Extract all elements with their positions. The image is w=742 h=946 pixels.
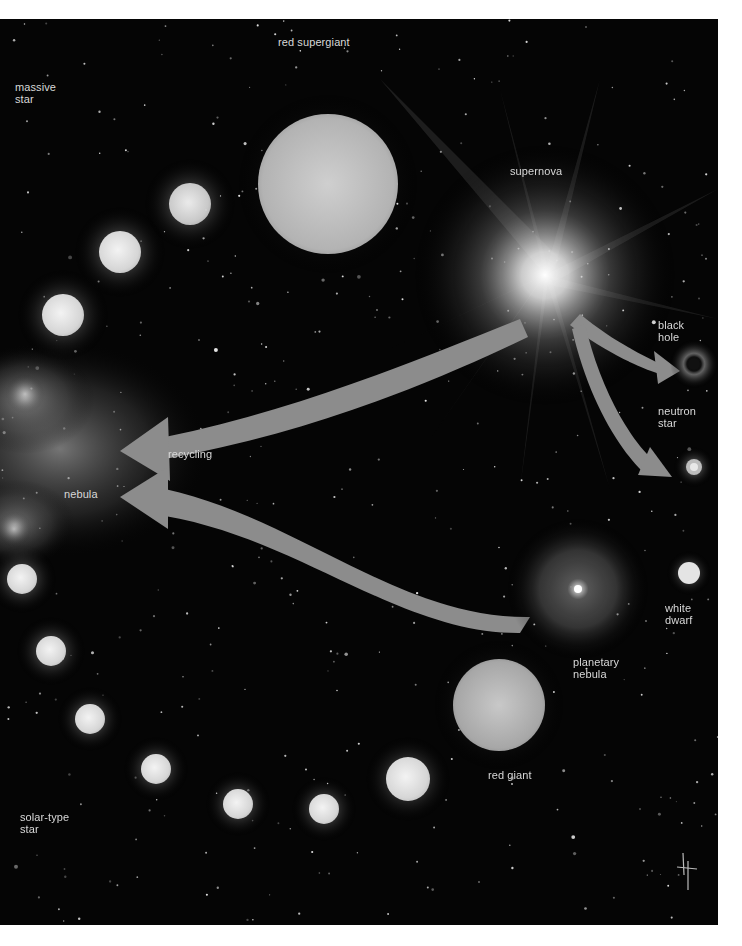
label-neutron-star: neutron star [658,405,696,429]
label-solar-type-star: solar-type star [20,811,69,835]
label-supernova: supernova [510,165,562,177]
stellar-lifecycle-illustration: massive star red supergiant supernova bl… [0,19,718,925]
black-hole [670,340,718,388]
label-white-dwarf: white dwarf [665,602,692,626]
illustration-shapes [0,19,718,925]
label-black-hole: black hole [658,319,684,343]
label-massive-star: massive star [15,81,56,105]
label-recycling: recycling [168,448,212,460]
red-giant-star [434,640,564,770]
label-red-supergiant: red supergiant [278,36,350,48]
white-dwarf [667,551,711,595]
massive-star-sequence [18,159,235,360]
red-supergiant-star [238,94,418,274]
label-nebula: nebula [64,488,98,500]
label-planetary-nebula: planetary nebula [573,656,619,680]
artist-signature [677,853,697,890]
planetary-nebula [508,519,648,659]
neutron-star [674,447,714,487]
label-red-giant: red giant [488,769,532,781]
